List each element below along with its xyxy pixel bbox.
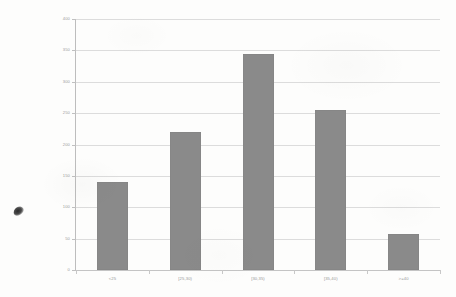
x-axis-tick-label: [25,30) [178,277,192,281]
bar [97,182,128,270]
y-axis-tick-label: 200 [63,142,70,146]
x-axis-tick-label: <25 [109,277,116,281]
x-axis-tick-label: >=40 [399,277,409,281]
x-axis-tick-mark [440,270,441,274]
x-axis-tick-mark [222,270,223,274]
y-axis-tick-label: 300 [63,80,70,84]
y-axis-tick-mark [72,207,76,208]
x-axis-tick-mark [76,270,77,274]
y-axis-tick-mark [72,50,76,51]
bar-chart: 050100150200250300350400 <25[25,30)[30,3… [0,0,456,297]
y-axis-tick-mark [72,19,76,20]
x-axis-tick-mark [367,270,368,274]
y-axis-tick-mark [72,239,76,240]
bar [315,110,346,270]
bar [243,54,274,270]
y-axis-tick-label: 400 [63,17,70,21]
gridline [76,50,440,51]
bar [170,132,201,270]
y-axis-tick-label: 0 [68,268,70,272]
gridline [76,19,440,20]
y-axis-tick-label: 150 [63,174,70,178]
x-axis-line [75,270,440,271]
x-axis-tick-label: [35,40) [324,277,338,281]
y-axis-tick-label: 350 [63,48,70,52]
x-axis-tick-mark [149,270,150,274]
y-axis-tick-label: 50 [65,237,70,241]
y-axis-tick-mark [72,145,76,146]
scan-ink-blot [12,205,26,218]
y-axis-tick-label: 100 [63,205,70,209]
y-axis-tick-mark [72,113,76,114]
bar [388,234,419,270]
x-axis-tick-label: [30,35) [251,277,265,281]
y-axis-tick-mark [72,176,76,177]
y-axis-tick-label: 250 [63,111,70,115]
x-axis-tick-mark [294,270,295,274]
y-axis-tick-mark [72,82,76,83]
plot-area: 050100150200250300350400 [76,19,440,270]
